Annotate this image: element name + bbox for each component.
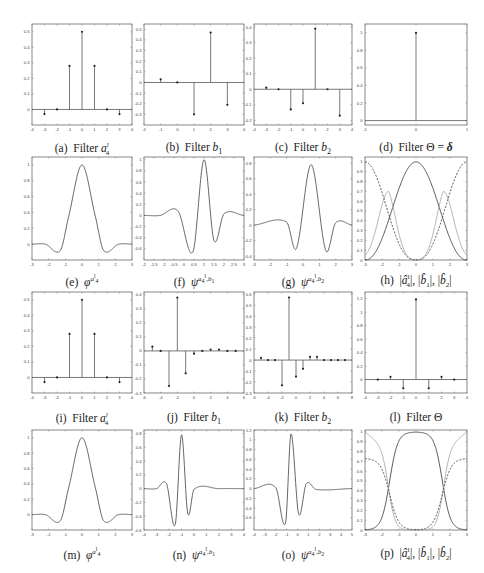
x-tick-label: 4 xyxy=(226,395,229,400)
y-tick-label: 0.2 xyxy=(246,336,252,341)
axes-frame xyxy=(254,430,352,530)
y-tick-label: 0.8 xyxy=(246,447,252,452)
axes-frame xyxy=(144,292,244,393)
axes-frame xyxy=(254,24,352,125)
stem-marker xyxy=(274,359,276,361)
x-tick-label: -2 xyxy=(55,395,59,400)
x-tick-label: -1.5 xyxy=(150,262,158,267)
x-tick-label: -3 xyxy=(363,262,367,267)
stem-marker xyxy=(326,88,328,90)
stem-marker xyxy=(330,359,332,361)
stem-marker xyxy=(56,108,58,110)
y-tick-label: -0.1 xyxy=(244,102,252,107)
x-tick-label: -0.5 xyxy=(170,262,178,267)
caption-g: (g) ψa4l,b2 xyxy=(244,273,362,288)
y-tick-label: 0.9 xyxy=(357,169,363,174)
y-tick-label: 0.8 xyxy=(136,431,142,436)
y-tick-label: 0.6 xyxy=(136,445,142,450)
x-tick-label: -3 xyxy=(30,532,34,537)
y-tick-label: -0.1 xyxy=(134,91,142,96)
x-tick-label: 2 xyxy=(209,127,212,132)
y-tick-label: 0.1 xyxy=(357,248,363,253)
y-tick-label: 0.1 xyxy=(357,518,363,523)
y-tick-label: 0.6 xyxy=(246,292,252,297)
y-tick-label: 0 xyxy=(139,348,142,353)
y-tick-label: 0 xyxy=(27,107,30,112)
caption-i: (i) Filter al4 xyxy=(22,411,142,427)
x-tick-label: 0 xyxy=(296,532,299,537)
x-tick-label: 1 xyxy=(432,262,435,267)
x-tick-label: 4 xyxy=(243,532,246,537)
x-tick-label: -1 xyxy=(159,127,163,132)
stem-marker xyxy=(314,28,316,30)
x-tick-label: -2 xyxy=(167,532,171,537)
x-tick-label: -3 xyxy=(43,395,47,400)
y-tick-label: 0.6 xyxy=(24,466,30,471)
y-tick-label: 1.2 xyxy=(357,296,363,301)
axes-frame xyxy=(365,157,467,260)
x-tick-label: 2 xyxy=(106,395,109,400)
caption-l: (l) Filter Θ xyxy=(355,411,477,423)
x-tick-label: 1 xyxy=(93,127,96,132)
caption-c: (c) Filter b2 xyxy=(244,141,362,156)
y-tick-label: 0.8 xyxy=(357,179,363,184)
x-tick-label: -2 xyxy=(142,262,146,267)
x-tick-label: -2 xyxy=(389,395,393,400)
x-tick-label: 0 xyxy=(415,262,418,267)
y-tick-label: 0.3 xyxy=(136,306,142,311)
x-tick-label: -3 xyxy=(376,395,380,400)
y-tick-label: 0.4 xyxy=(136,37,142,42)
x-tick-label: -2 xyxy=(47,532,51,537)
stem-marker xyxy=(218,348,220,350)
x-tick-label: 0 xyxy=(81,262,84,267)
stem-marker xyxy=(453,378,455,380)
stem-marker xyxy=(235,350,237,352)
x-tick-label: 1 xyxy=(203,262,206,267)
x-tick-label: -1 xyxy=(363,127,367,132)
y-tick-label: 0.8 xyxy=(357,323,363,328)
y-tick-label: 0.2 xyxy=(246,56,252,61)
y-tick-label: 0 xyxy=(27,512,30,517)
x-tick-label: 3 xyxy=(230,532,233,537)
x-tick-label: -1 xyxy=(285,262,289,267)
x-tick-label: 2 xyxy=(440,395,443,400)
x-tick-label: 3 xyxy=(466,262,469,267)
y-tick-label: 1 xyxy=(139,157,142,162)
subplot-h: -3-2-1012300.10.20.30.40.50.60.70.80.91 xyxy=(365,157,467,260)
y-tick-label: -0.2 xyxy=(244,238,252,243)
y-tick-label: 0.4 xyxy=(246,192,252,197)
axes-frame xyxy=(365,430,467,530)
x-tick-label: 3 xyxy=(131,262,134,267)
y-tick-label: 0.6 xyxy=(357,469,363,474)
y-tick-label: -0.1 xyxy=(244,369,252,374)
caption-m: (m) φal4 xyxy=(22,546,142,561)
y-tick-label: 0.4 xyxy=(24,481,30,486)
x-tick-label: 2 xyxy=(318,532,321,537)
stem-marker xyxy=(267,359,269,361)
stem-marker xyxy=(160,78,162,80)
x-tick-label: -2 xyxy=(277,127,281,132)
stem-marker xyxy=(226,350,228,352)
y-tick-label: 0.4 xyxy=(357,350,363,355)
y-tick-label: 0.8 xyxy=(24,178,30,183)
x-tick-label: -2 xyxy=(47,262,51,267)
x-tick-label: 3 xyxy=(118,395,121,400)
y-tick-label: 0 xyxy=(360,377,363,382)
y-tick-label: 0 xyxy=(27,242,30,247)
y-tick-label: 0.3 xyxy=(136,48,142,53)
y-tick-label: 0 xyxy=(360,118,363,123)
stem-marker xyxy=(168,385,170,387)
y-tick-label: 0.4 xyxy=(24,313,30,318)
x-tick-label: 2 xyxy=(334,262,337,267)
x-tick-label: 0 xyxy=(302,262,305,267)
caption-k: (k) Filter b2 xyxy=(244,411,362,426)
x-tick-label: -3 xyxy=(252,262,256,267)
x-tick-label: -3 xyxy=(30,262,34,267)
stem-marker xyxy=(290,108,292,110)
x-tick-label: 8 xyxy=(351,395,354,400)
stem-marker xyxy=(56,376,58,378)
stem-marker xyxy=(226,104,228,106)
caption-f: (f) ψa4l,b1 xyxy=(134,273,254,288)
y-tick-label: 0.2 xyxy=(357,508,363,513)
x-tick-label: 0 xyxy=(415,127,418,132)
